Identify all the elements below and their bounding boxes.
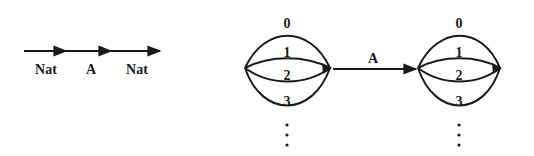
ellipsis-dot xyxy=(285,133,288,136)
middle-arrow: A xyxy=(333,51,416,69)
arc-label-0: 0 xyxy=(456,16,463,31)
arrow-a-label: A xyxy=(368,51,379,66)
ellipsis-dot xyxy=(457,123,460,126)
arc-label-3: 3 xyxy=(456,94,463,109)
cluster-right: 0 1 2 3 xyxy=(418,16,502,147)
ellipsis-dot xyxy=(285,123,288,126)
arc-label-1: 1 xyxy=(456,45,463,60)
arc-label-3: 3 xyxy=(284,94,291,109)
arc-label-1: 1 xyxy=(284,45,291,60)
ellipsis-dot xyxy=(457,133,460,136)
cluster-left-arrowhead xyxy=(322,63,332,74)
ellipsis-dot xyxy=(457,143,460,146)
arc-label-2: 2 xyxy=(284,68,291,83)
chain-label-nat-1: Nat xyxy=(35,62,57,77)
chain-label-a: A xyxy=(86,62,97,77)
left-chain: Nat A Nat xyxy=(24,51,160,77)
arc-label-0: 0 xyxy=(284,16,291,31)
arc-label-2: 2 xyxy=(456,68,463,83)
cluster-right-arrowhead xyxy=(492,63,502,74)
chain-label-nat-2: Nat xyxy=(126,62,148,77)
diagram-canvas: Nat A Nat 0 1 2 3 A 0 1 2 3 xyxy=(0,0,534,156)
ellipsis-dot xyxy=(285,143,288,146)
cluster-left: 0 1 2 3 xyxy=(245,16,332,147)
